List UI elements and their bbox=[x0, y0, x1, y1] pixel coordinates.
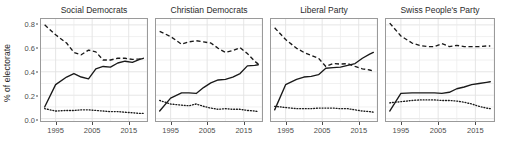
x-tick-label: 2015 bbox=[120, 126, 137, 135]
x-axis: 199520052015 bbox=[385, 122, 495, 142]
x-tick-mark bbox=[207, 122, 208, 125]
x-tick-label: 2005 bbox=[314, 126, 331, 135]
facet-panel: Social Democrats bbox=[40, 18, 148, 122]
x-tick-mark bbox=[92, 122, 93, 125]
x-tick-mark bbox=[401, 122, 402, 125]
y-tick-label: 0.6 bbox=[25, 43, 35, 52]
x-tick-label: 1995 bbox=[162, 126, 179, 135]
x-axis: 199520052015 bbox=[40, 122, 148, 142]
y-axis-label: % of electorate bbox=[0, 0, 14, 146]
y-tick-label: 0.4 bbox=[25, 67, 35, 76]
plot-area bbox=[156, 19, 262, 121]
facet-panel-title: Swiss People's Party bbox=[380, 4, 500, 16]
y-tick-mark bbox=[36, 71, 39, 72]
x-tick-label: 2005 bbox=[430, 126, 447, 135]
x-tick-mark bbox=[322, 122, 323, 125]
plot-area bbox=[271, 19, 377, 121]
plot-area bbox=[41, 19, 147, 121]
x-tick-label: 2015 bbox=[467, 126, 484, 135]
y-tick-mark bbox=[36, 119, 39, 120]
x-tick-label: 2005 bbox=[199, 126, 216, 135]
x-tick-mark bbox=[56, 122, 57, 125]
x-tick-mark bbox=[438, 122, 439, 125]
x-tick-mark bbox=[129, 122, 130, 125]
y-tick-mark bbox=[36, 47, 39, 48]
facet-panel: Swiss People's Party bbox=[385, 18, 495, 122]
facet-panel-title: Social Democrats bbox=[35, 4, 153, 16]
plot-area bbox=[386, 19, 494, 121]
facet-panel: Christian Democrats bbox=[155, 18, 263, 122]
x-tick-label: 1995 bbox=[277, 126, 294, 135]
x-tick-mark bbox=[171, 122, 172, 125]
facet-panel-title: Liberal Party bbox=[265, 4, 383, 16]
facet-panel-title: Christian Democrats bbox=[150, 4, 268, 16]
y-tick-mark bbox=[36, 23, 39, 24]
x-tick-mark bbox=[244, 122, 245, 125]
y-tick-mark bbox=[36, 95, 39, 96]
x-tick-label: 2005 bbox=[84, 126, 101, 135]
y-axis-ticks: 0.00.20.40.60.8 bbox=[14, 18, 38, 122]
x-tick-label: 2015 bbox=[350, 126, 367, 135]
x-tick-label: 1995 bbox=[393, 126, 410, 135]
x-axis: 199520052015 bbox=[270, 122, 378, 142]
x-tick-mark bbox=[359, 122, 360, 125]
chart-figure: % of electorate 0.00.20.40.60.8 Social D… bbox=[0, 0, 512, 146]
x-axis: 199520052015 bbox=[155, 122, 263, 142]
y-tick-label: 0.8 bbox=[25, 19, 35, 28]
x-tick-mark bbox=[475, 122, 476, 125]
facet-panel: Liberal Party bbox=[270, 18, 378, 122]
y-tick-label: 0.0 bbox=[25, 115, 35, 124]
x-tick-mark bbox=[286, 122, 287, 125]
y-tick-label: 0.2 bbox=[25, 91, 35, 100]
x-tick-label: 1995 bbox=[47, 126, 64, 135]
x-tick-label: 2015 bbox=[235, 126, 252, 135]
